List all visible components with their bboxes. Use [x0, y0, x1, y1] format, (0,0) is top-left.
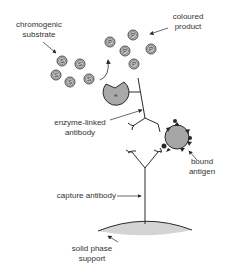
label-bound-antigen: bound antigen	[184, 157, 220, 177]
label-line: enzyme-linked	[50, 118, 110, 128]
support-pointer	[108, 236, 118, 242]
label-chromogenic-substrate: chromogenic substrate	[12, 20, 66, 40]
product-molecules: P P P P P	[105, 30, 156, 69]
svg-text:P: P	[132, 61, 136, 67]
substrate-s: S	[57, 56, 67, 66]
substrate-s: S	[51, 70, 61, 80]
conversion-arrow	[100, 60, 108, 80]
label-line: antigen	[184, 167, 220, 177]
svg-text:S: S	[78, 61, 82, 67]
elisa-diagram: e S S S S S P P P P P chromogenic substr…	[0, 0, 225, 273]
substrate-s: S	[75, 59, 85, 69]
product-p: P	[105, 37, 115, 47]
label-line: substrate	[12, 30, 66, 40]
svg-text:P: P	[123, 48, 127, 54]
substrate-pointer	[43, 42, 56, 53]
bound-antigen	[162, 119, 193, 152]
label-line: coloured	[166, 12, 210, 22]
svg-text:P: P	[131, 32, 135, 38]
diagram-graphic: e S S S S S P P P P P	[0, 0, 225, 273]
product-p: P	[146, 44, 156, 54]
svg-text:P: P	[149, 46, 153, 52]
label-solid-phase-support: solid phase support	[68, 244, 116, 264]
product-p: P	[120, 46, 130, 56]
label-line: product	[166, 22, 210, 32]
enzyme-linked-antibody	[125, 78, 160, 132]
svg-text:S: S	[87, 76, 91, 82]
label-line: chromogenic	[12, 20, 66, 30]
enzyme: e	[103, 82, 129, 105]
product-p: P	[129, 59, 139, 69]
label-enzyme-linked-antibody: enzyme-linked antibody	[50, 118, 110, 138]
substrate-molecules: S S S S S	[51, 56, 94, 87]
label-capture-antibody: capture antibody	[44, 191, 116, 201]
enzyme-antibody-pointer	[110, 110, 142, 120]
label-line: antibody	[50, 128, 110, 138]
svg-text:S: S	[60, 58, 64, 64]
substrate-s: S	[84, 74, 94, 84]
svg-text:P: P	[108, 39, 112, 45]
label-line: solid phase	[68, 244, 116, 254]
label-line: bound	[184, 157, 220, 167]
label-coloured-product: coloured product	[166, 12, 210, 32]
substrate-s: S	[65, 77, 75, 87]
product-p: P	[128, 30, 138, 40]
label-line: support	[68, 254, 116, 264]
svg-text:S: S	[54, 72, 58, 78]
capture-antibody	[126, 148, 162, 224]
svg-text:S: S	[68, 79, 72, 85]
